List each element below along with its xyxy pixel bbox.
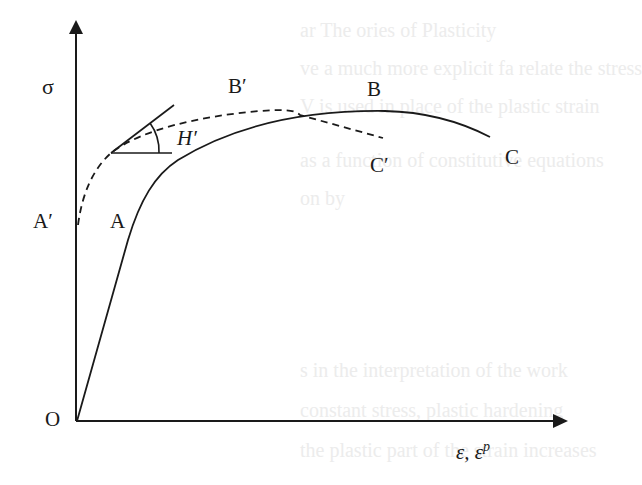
x-axis-label: ε, εp bbox=[456, 440, 490, 463]
angle-arc bbox=[150, 123, 159, 153]
y-axis-arrow-icon bbox=[69, 20, 83, 34]
origin-label: O bbox=[45, 409, 60, 430]
y-axis-label: σ bbox=[42, 76, 54, 98]
x-axis-label-superscript: p bbox=[483, 439, 490, 454]
x-axis-arrow-icon bbox=[553, 414, 568, 428]
point-label-b-prime: B′ bbox=[228, 76, 247, 97]
tangent-line bbox=[111, 105, 174, 153]
point-label-b: B bbox=[367, 79, 381, 100]
point-label-a-prime: A′ bbox=[33, 211, 53, 232]
hardening-modulus-label: H′ bbox=[177, 128, 197, 149]
x-axis-label-text: ε, ε bbox=[456, 440, 483, 464]
solid-curve bbox=[77, 111, 490, 421]
point-label-a: A bbox=[110, 211, 125, 232]
point-label-c-prime: C′ bbox=[370, 155, 389, 176]
dashed-curve bbox=[78, 110, 383, 225]
point-label-c: C bbox=[505, 147, 519, 168]
